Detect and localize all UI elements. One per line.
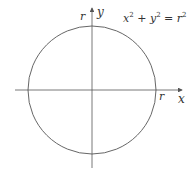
x-axis-label: x	[178, 92, 185, 106]
r-right-label: r	[159, 90, 165, 103]
y-axis-label: y	[96, 5, 104, 19]
r-top-label: r	[80, 10, 86, 23]
equation: x2 + y2 = r2	[123, 11, 187, 25]
circle-diagram: y r x r x2 + y2 = r2	[0, 0, 193, 186]
